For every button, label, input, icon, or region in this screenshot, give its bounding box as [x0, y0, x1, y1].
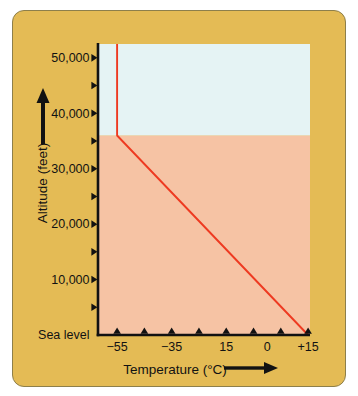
- y-tick: [91, 165, 97, 173]
- y-tick: [91, 276, 97, 284]
- y-tick-label: 10,000: [51, 273, 89, 287]
- y-tick: [91, 137, 97, 145]
- y-tick: [91, 220, 97, 228]
- y-tick-label: 40,000: [51, 107, 89, 121]
- y-tick: [91, 54, 97, 62]
- x-tick-label: −35: [161, 340, 182, 354]
- x-tick-label: −55: [106, 340, 127, 354]
- chart-canvas: −55−35150+15Sea level10,00020,00030,0004…: [0, 0, 358, 396]
- y-tick-label: Sea level: [38, 328, 89, 342]
- y-tick: [91, 109, 97, 117]
- y-tick-label: 30,000: [51, 162, 89, 176]
- y-axis-title: Altitude (feet): [35, 143, 50, 223]
- x-tick-label: 0: [264, 340, 271, 354]
- figure-page: −55−35150+15Sea level10,00020,00030,0004…: [0, 0, 358, 396]
- x-tick-label: +15: [297, 340, 318, 354]
- x-tick-label: 15: [219, 340, 233, 354]
- y-tick-label: 50,000: [51, 51, 89, 65]
- region-upper-atmosphere: [98, 44, 310, 135]
- y-tick-label: 20,000: [51, 217, 89, 231]
- y-tick: [91, 303, 97, 311]
- right-arrow-icon: [224, 362, 278, 374]
- y-tick: [91, 193, 97, 201]
- up-arrow-icon: [36, 88, 50, 144]
- x-axis-title: Temperature (°C): [123, 362, 227, 377]
- y-tick: [91, 248, 97, 256]
- y-tick: [91, 82, 97, 90]
